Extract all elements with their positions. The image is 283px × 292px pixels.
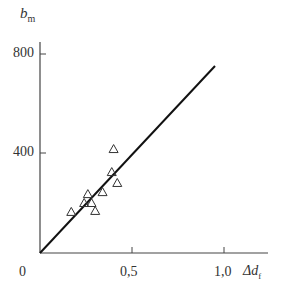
origin-label: 0	[19, 264, 26, 280]
chart-plot	[0, 0, 283, 292]
triangle-markers	[67, 145, 122, 216]
triangle-marker	[113, 178, 122, 186]
y-tick-label-400: 400	[13, 144, 34, 160]
y-axis-label: bm	[20, 5, 35, 24]
triangle-marker	[67, 207, 76, 215]
triangle-marker	[91, 206, 100, 214]
x-tick-label-10: 1,0	[214, 264, 232, 280]
triangle-marker	[83, 190, 92, 198]
y-tick-label-800: 800	[13, 45, 34, 61]
triangle-marker	[109, 145, 118, 153]
fit-line	[40, 66, 215, 253]
x-axis-label: Δdf	[243, 263, 261, 281]
x-tick-label-05: 0,5	[120, 264, 138, 280]
